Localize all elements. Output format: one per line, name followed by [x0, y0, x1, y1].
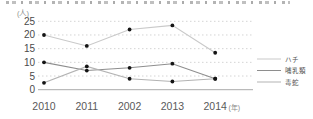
y-tick-label: 15: [24, 43, 36, 54]
y-tick-label: 20: [24, 29, 36, 40]
data-point-marker: [213, 77, 217, 81]
data-point-marker: [128, 77, 132, 81]
x-axis-unit-label: (年): [229, 103, 241, 112]
data-point-marker: [42, 60, 46, 64]
y-tick-label: 10: [24, 57, 36, 68]
data-point-marker: [128, 66, 132, 70]
x-tick-label: 2014: [204, 100, 228, 112]
clipped-title-fragment: [6, 1, 290, 4]
y-tick-label: 5: [29, 71, 35, 82]
data-point-marker: [85, 44, 89, 48]
y-axis-unit-label: (人): [17, 9, 29, 18]
data-point-marker: [171, 62, 175, 66]
x-tick-label: 2002: [118, 100, 142, 112]
x-tick-label: 2010: [32, 100, 56, 112]
line-chart: 0510152025(人)20102011200220132014(年)ハチ哺乳…: [0, 0, 313, 119]
data-point-marker: [85, 65, 89, 69]
data-point-marker: [128, 28, 132, 32]
x-tick-label: 2013: [161, 100, 185, 112]
x-tick-label: 2011: [76, 100, 99, 112]
legend-item-label: ハチ: [285, 56, 299, 63]
legend-item-label: 哺乳類: [285, 66, 306, 75]
data-point-marker: [42, 81, 46, 85]
y-tick-label: 0: [29, 84, 35, 95]
data-point-marker: [42, 33, 46, 37]
data-point-marker: [85, 69, 89, 73]
data-point-marker: [213, 51, 217, 55]
data-point-marker: [171, 24, 175, 28]
chart-panel: 0510152025(人)20102011200220132014(年)ハチ哺乳…: [0, 0, 313, 119]
data-point-marker: [171, 80, 175, 84]
series-line: [44, 62, 215, 78]
legend-item-label: 毒蛇: [285, 78, 299, 87]
